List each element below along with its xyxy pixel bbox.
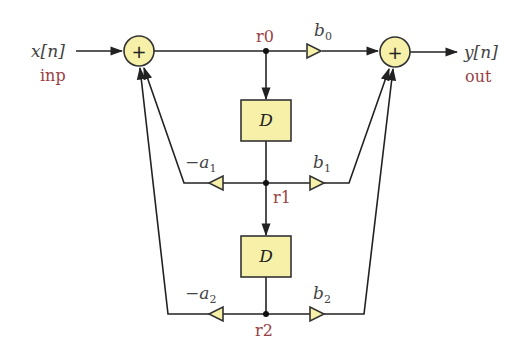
input-name: inp (40, 66, 66, 85)
node-label-r0: r0 (256, 27, 274, 46)
gain-b1-icon (310, 176, 324, 190)
right-adder: + (380, 37, 410, 67)
gain-label-b1: b1 (313, 152, 331, 175)
gain-label-a2: −a2 (185, 283, 216, 306)
svg-text:D: D (258, 246, 273, 266)
junction-r2 (263, 311, 269, 317)
output-symbol: y[n] (463, 42, 498, 62)
adder-plus-icon: + (131, 41, 146, 62)
left-adder: + (124, 36, 154, 66)
adder-plus-icon: + (387, 42, 402, 63)
junction-r0 (263, 48, 269, 54)
junction-r1 (263, 180, 269, 186)
output-name: out (465, 67, 492, 86)
delay-block-1: D (241, 100, 291, 141)
node-label-r1: r1 (273, 188, 291, 207)
gain-a1-icon (209, 176, 223, 190)
svg-text:D: D (258, 110, 273, 130)
delay-block-2: D (241, 236, 291, 277)
gain-b0-icon (307, 44, 321, 58)
input-symbol: x[n] (31, 41, 65, 61)
gain-label-a1: −a1 (185, 152, 216, 175)
gain-label-b0: b0 (314, 20, 332, 43)
filter-diagram: + + D D x[n] inp y[n] out r0 r1 r2 b0 −a… (0, 0, 519, 356)
gain-a2-icon (209, 307, 223, 321)
gain-label-b2: b2 (313, 283, 331, 306)
gain-b2-icon (310, 307, 324, 321)
node-label-r2: r2 (255, 321, 273, 340)
